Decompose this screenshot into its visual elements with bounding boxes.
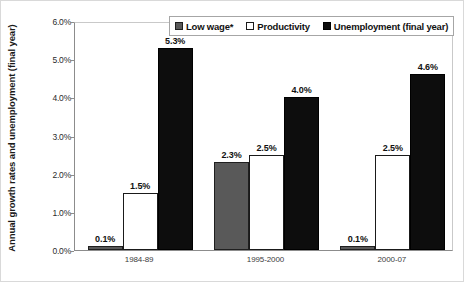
y-axis-title: Annual growth rates and unemployment (fi… [3,3,21,273]
bar-productivity-2000-07 [375,155,410,250]
legend-item-productivity[interactable]: Productivity [246,21,310,32]
bar-unemployment-1984-89 [158,48,193,250]
bar-unemployment-2000-07 [410,74,445,250]
bar-productivity-1995-2000 [249,155,284,250]
bar-unemployment-1995-2000 [284,97,319,250]
y-tick-label: 3.0% [29,133,71,142]
x-tick-label-1995-2000: 1995-2000 [221,255,311,264]
legend-item-lowwage[interactable]: Low wage* [175,21,233,32]
bar-lowwage-2000-07 [340,246,375,250]
legend-label: Productivity [257,21,310,32]
legend-swatch-unemployment-icon [323,22,331,30]
y-tick-label: 5.0% [29,56,71,65]
bar-value-label: 4.0% [274,85,329,95]
y-tick-label: 4.0% [29,94,71,103]
x-tick-label-1984-89: 1984-89 [94,255,184,264]
legend-swatch-productivity-icon [246,22,254,30]
y-tick-label: 1.0% [29,209,71,218]
y-tick-label: 6.0% [29,18,71,27]
bar-lowwage-1984-89 [88,246,123,250]
legend-label: Unemployment (final year) [334,21,448,32]
bar-productivity-1984-89 [123,193,158,250]
y-tick-mark [70,251,74,252]
x-tick-label-2000-07: 2000-07 [347,255,437,264]
bar-value-label: 5.3% [148,36,203,46]
y-tick-label: 2.0% [29,171,71,180]
chart-figure: Annual growth rates and unemployment (fi… [0,0,464,282]
plot-area: 0.1%1.5%5.3%2.3%2.5%4.0%0.1%2.5%4.6% [74,22,453,251]
y-tick-label: 0.0% [29,247,71,256]
bar-lowwage-1995-2000 [214,162,249,250]
legend-label: Low wage* [186,21,233,32]
chart-legend: Low wage*ProductivityUnemployment (final… [169,16,454,36]
legend-swatch-lowwage-icon [175,22,183,30]
legend-item-unemployment[interactable]: Unemployment (final year) [323,21,448,32]
bar-value-label: 4.6% [400,62,455,72]
